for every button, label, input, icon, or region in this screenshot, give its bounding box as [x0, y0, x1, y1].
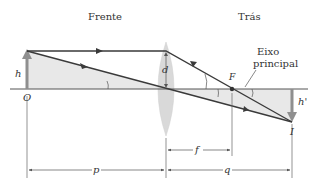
- label-h-prime: h': [298, 96, 307, 107]
- label-I: I: [289, 126, 295, 137]
- diagram-canvas: Frente Trás Eixo principal h O d F h' I …: [0, 0, 317, 189]
- label-h: h: [15, 68, 21, 79]
- label-F: F: [228, 72, 236, 82]
- label-p: p: [93, 164, 100, 175]
- ray-arrow-3: [190, 61, 197, 67]
- lens-ray-diagram: Frente Trás Eixo principal h O d F h' I …: [0, 0, 317, 189]
- label-f: f: [194, 144, 201, 155]
- label-axis-line1: Eixo: [257, 46, 279, 57]
- label-axis-line2: principal: [253, 58, 298, 69]
- label-back: Trás: [238, 11, 261, 22]
- focal-point-dot: [230, 87, 234, 91]
- label-q: q: [224, 164, 230, 175]
- axis-label-leader: [245, 70, 256, 87]
- angle-arc-lens: [205, 74, 207, 89]
- label-O: O: [23, 92, 31, 103]
- ray-arrow-1: [96, 48, 103, 54]
- label-front: Frente: [88, 11, 122, 22]
- label-d: d: [162, 64, 168, 75]
